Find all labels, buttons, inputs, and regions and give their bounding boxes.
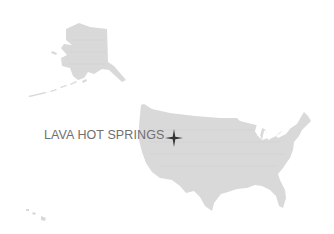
- us-map: [0, 0, 334, 234]
- contiguous-us-region: [139, 104, 311, 211]
- hawaii-region: [26, 209, 29, 211]
- location-label: LAVA HOT SPRINGS: [44, 128, 164, 142]
- alaska-region: [61, 23, 126, 82]
- four-point-star-icon: [164, 128, 184, 148]
